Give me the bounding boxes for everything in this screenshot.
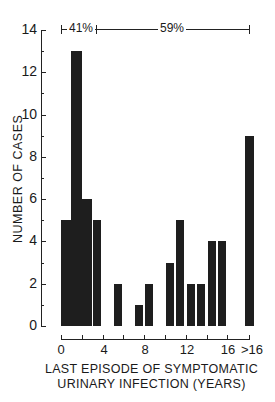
x-tick-label: 4 — [89, 342, 119, 357]
bar-11-12 — [176, 220, 184, 326]
x-axis — [61, 339, 250, 340]
x-axis-label-line-2: URINARY INFECTION (YEARS) — [0, 377, 275, 391]
x-tick-label: 0 — [46, 342, 76, 357]
x-tick-label: 8 — [130, 342, 160, 357]
bar->16 — [245, 136, 254, 326]
y-tick — [41, 51, 44, 52]
y-tick — [41, 178, 44, 179]
bar-10-11 — [166, 263, 174, 326]
y-tick — [41, 220, 44, 221]
y-axis-label: NUMBER OF CASES — [11, 123, 25, 243]
y-tick — [41, 199, 46, 200]
bar-13-14 — [197, 284, 205, 326]
y-tick — [41, 326, 46, 327]
y-tick-label: 0 — [13, 317, 37, 333]
chart: 02468101214 NUMBER OF CASES 41% 59% 0481… — [0, 0, 275, 402]
annotation-41-percent: 41% — [67, 21, 95, 35]
y-tick-label: 12 — [13, 63, 37, 79]
y-tick-label: 2 — [13, 275, 37, 291]
y-tick-label: 14 — [13, 21, 37, 37]
x-axis-label-line-1: LAST EPISODE OF SYMPTOMATIC — [0, 362, 275, 376]
x-tick — [227, 335, 228, 340]
bar-15-16 — [218, 241, 226, 326]
x-tick — [165, 335, 166, 340]
y-tick — [41, 93, 44, 94]
x-tick — [61, 335, 62, 340]
x-tick-label: >16 — [237, 342, 267, 357]
bar-3-4 — [93, 220, 101, 326]
bar-7-8 — [135, 305, 143, 326]
x-tick — [186, 335, 187, 340]
x-tick — [123, 335, 124, 340]
x-tick — [249, 335, 250, 340]
bracket-tick-mid — [96, 25, 97, 34]
y-tick — [41, 305, 44, 306]
x-tick — [82, 335, 83, 340]
x-tick-label: 12 — [172, 342, 202, 357]
bar-2-3 — [82, 199, 92, 326]
bar-14-15 — [208, 241, 216, 326]
y-tick — [41, 136, 44, 137]
y-tick — [41, 115, 46, 116]
bracket-tick-right — [249, 25, 250, 34]
y-tick — [41, 72, 46, 73]
y-tick — [41, 157, 46, 158]
x-tick — [207, 335, 208, 340]
y-tick — [41, 241, 46, 242]
bar-1-2 — [71, 51, 81, 326]
bar-12-13 — [187, 284, 195, 326]
bar-5-6 — [114, 284, 122, 326]
y-tick — [41, 284, 46, 285]
bracket-tick-left — [61, 25, 62, 34]
annotation-59-percent: 59% — [158, 21, 186, 35]
bar-8-9 — [145, 284, 153, 326]
bar-0-1 — [61, 220, 71, 326]
x-tick — [103, 335, 104, 340]
y-tick — [41, 263, 44, 264]
y-tick — [41, 30, 46, 31]
x-tick — [144, 335, 145, 340]
